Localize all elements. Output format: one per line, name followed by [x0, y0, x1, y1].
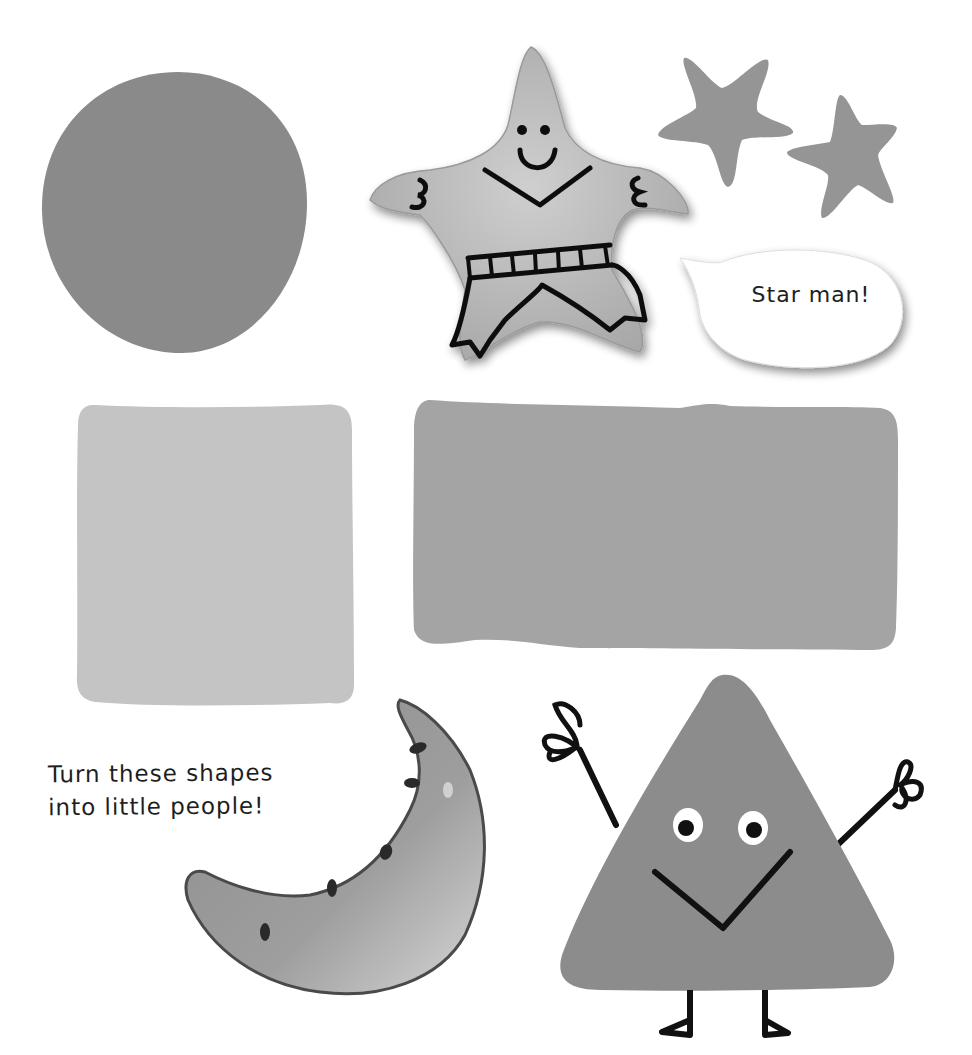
- eye-icon: [540, 125, 550, 135]
- rectangle-shape: [413, 400, 898, 650]
- star-man: [370, 47, 688, 360]
- speech-bubble: [680, 250, 903, 368]
- caption-line-1: Turn these shapes: [48, 756, 348, 792]
- triangle-person: [544, 675, 921, 1035]
- caption: Turn these shapes into little people!: [48, 756, 349, 825]
- square-shape: [77, 404, 354, 705]
- small-star-2: [787, 95, 897, 218]
- caption-line-2: into little people!: [48, 789, 348, 825]
- speech-bubble-text: Star man!: [716, 282, 906, 307]
- eye-icon: [517, 125, 527, 135]
- circle-shape: [42, 72, 307, 353]
- shapes-canvas: [0, 0, 972, 1055]
- small-star-1: [658, 58, 793, 187]
- crescent-shape: [186, 700, 484, 994]
